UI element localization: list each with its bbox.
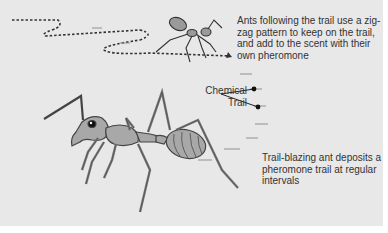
chemical-trail-label: Chemical Trail: [203, 85, 247, 108]
zigzag-trail-path: [12, 20, 230, 56]
arrowhead-icon: [226, 52, 232, 58]
chemical-trail-label-line1: Chemical: [203, 85, 247, 97]
trail-blazing-ant-icon: [44, 92, 238, 212]
chemical-trail-label-line2: Trail: [203, 97, 247, 109]
trail-blazer-caption: Trail-blazing ant deposits a pheromone t…: [262, 152, 382, 187]
trail-dot-1: [252, 87, 257, 92]
follower-ants-caption: Ants following the trail use a zig-zag p…: [237, 15, 387, 61]
trail-dot-2: [256, 105, 261, 110]
